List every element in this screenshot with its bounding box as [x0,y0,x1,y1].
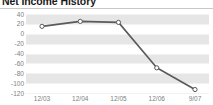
y-axis-tick-label: -80 [0,70,24,77]
x-axis-tick-label: 9/07 [189,95,202,102]
y-axis-tick-label: -120 [0,90,24,97]
y-axis-tick-label: -40 [0,50,24,57]
y-axis-tick-label: -100 [0,80,24,87]
data-point-marker[interactable] [40,24,44,28]
y-axis-tick-label: 20 [0,20,24,27]
x-axis-tick-label: 12/05 [110,95,126,102]
data-point-markers [40,19,197,91]
data-point-marker[interactable] [193,87,197,91]
y-axis-labels: 40200-20-40-60-80-100-120 [0,14,24,93]
y-axis-tick-label: 40 [0,11,24,18]
gridline [26,93,209,94]
chart-canvas: 40200-20-40-60-80-100-120 12/0312/0412/0… [0,9,213,105]
data-point-marker[interactable] [155,66,159,70]
data-point-marker[interactable] [78,19,82,23]
y-axis-tick-label: -20 [0,40,24,47]
page-title: Net Income History [2,0,96,7]
line-series-svg [26,14,209,93]
y-axis-tick-label: -60 [0,60,24,67]
x-axis-tick-label: 12/04 [72,95,88,102]
plot-area [26,14,209,93]
x-axis-labels: 12/0312/0412/0512/069/07 [26,95,209,105]
y-axis-tick-label: 0 [0,30,24,37]
chart-title-bar: Net Income History [0,0,213,9]
x-axis-tick-label: 12/03 [34,95,50,102]
net-income-history-chart-widget: Net Income History 40200-20-40-60-80-100… [0,0,213,105]
line-series-path [42,21,195,89]
x-axis-tick-label: 12/06 [149,95,165,102]
data-point-marker[interactable] [116,20,120,24]
